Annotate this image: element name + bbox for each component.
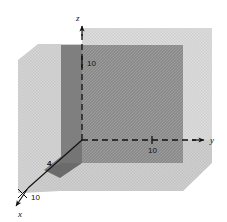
y-axis-label: y (209, 135, 214, 145)
y-tick-label: 10 (148, 146, 157, 155)
x-tick-label: 10 (31, 193, 40, 202)
z-axis-label: z (75, 13, 80, 23)
z-tick-label: 10 (87, 59, 96, 68)
x-axis-label: x (17, 209, 22, 219)
diagram-canvas: z y x 10 10 10 4 (0, 0, 227, 222)
x-intercept-label: 4 (47, 159, 52, 168)
coordinate-diagram-figure: z y x 10 10 10 4 (0, 0, 227, 222)
